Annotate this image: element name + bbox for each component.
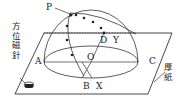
compass-label: 方位磁針 <box>11 22 21 60</box>
label-B: B <box>83 82 90 91</box>
horizon-ellipse-front <box>44 62 138 78</box>
label-X: X <box>96 82 102 91</box>
label-P: P <box>46 3 52 12</box>
sun-path-upper <box>70 13 136 34</box>
label-O: O <box>87 53 94 62</box>
label-C: C <box>149 57 156 66</box>
p-pointer <box>55 8 70 14</box>
label-A: A <box>35 57 42 66</box>
label-Y: Y <box>113 36 119 45</box>
sun-path-meridian <box>68 13 84 76</box>
paper-label: 厚紙 <box>163 63 173 82</box>
label-D: D <box>100 36 107 45</box>
